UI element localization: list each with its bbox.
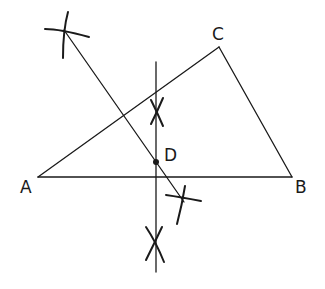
- label-d: D: [164, 145, 177, 165]
- construction-diagram: A B C D: [0, 0, 325, 289]
- side-ac: [38, 47, 219, 177]
- arc-mark-bottom: [166, 186, 201, 224]
- label-a: A: [20, 177, 32, 197]
- perpendicular-bisector-ac: [64, 30, 184, 202]
- arc-mark-lower: [146, 227, 164, 262]
- side-bc: [219, 47, 292, 177]
- arc-mark-upper: [151, 98, 163, 126]
- point-d-marker: [153, 159, 159, 165]
- label-b: B: [295, 177, 307, 197]
- label-c: C: [212, 24, 224, 44]
